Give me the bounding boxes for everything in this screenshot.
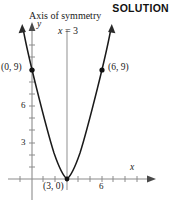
axis-of-symmetry-equation: x = 3 xyxy=(58,26,78,36)
solution-heading: SOLUTION xyxy=(112,2,169,14)
point-label-left: (0, 9) xyxy=(1,63,22,73)
y-axis xyxy=(29,22,36,200)
point-marker-left xyxy=(29,67,34,72)
y-tick-label-3: 3 xyxy=(21,138,26,147)
point-label-right: (6, 9) xyxy=(108,63,129,73)
parabola-figure: SOLUTION Axis of symmetry x = 3 (0, 9) (… xyxy=(0,0,172,200)
x-axis-label: x xyxy=(130,163,134,173)
x-axis xyxy=(8,176,156,183)
vertex-label: (3, 0) xyxy=(43,182,64,192)
point-marker-vertex xyxy=(65,177,70,182)
axis-of-symmetry-equation-value: = 3 xyxy=(62,25,78,36)
x-tick-label-6: 6 xyxy=(99,182,104,191)
point-marker-right xyxy=(99,67,104,72)
y-tick-label-6: 6 xyxy=(21,101,26,110)
y-axis-label: y xyxy=(37,20,41,30)
